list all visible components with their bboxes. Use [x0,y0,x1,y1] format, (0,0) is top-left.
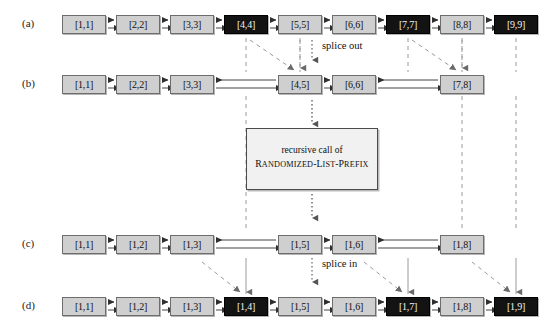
node-d-7[interactable]: [1,7] [386,297,430,316]
row-label-a: (a) [22,17,34,29]
node-a-3[interactable]: [3,3] [170,15,214,34]
node-b-3[interactable]: [3,3] [170,75,214,94]
recursive-call-dash-p: -P [335,158,344,169]
splice-in-label: splice in [322,258,357,269]
node-c-4[interactable]: [1,5] [278,235,322,254]
node-b-1[interactable]: [1,1] [62,75,106,94]
node-a-2[interactable]: [2,2] [116,15,160,34]
node-c-1[interactable]: [1,1] [62,235,106,254]
node-c-6[interactable]: [1,8] [440,235,484,254]
figure-canvas: (a) (b) (c) (d) [1,1] [2,2] [3,3] [4,4] … [0,0,541,335]
node-c-2[interactable]: [1,2] [116,235,160,254]
node-d-6[interactable]: [1,6] [332,297,376,316]
recursive-call-line1: recursive call of [281,145,342,155]
splice-out-label: splice out [322,40,363,51]
node-d-3[interactable]: [1,3] [170,297,214,316]
node-a-1[interactable]: [1,1] [62,15,106,34]
recursive-call-name-andomized: ANDOMIZED [262,160,313,169]
node-a-5[interactable]: [5,5] [278,15,322,34]
recursive-call-name-ist: IST [322,160,335,169]
node-b-2[interactable]: [2,2] [116,75,160,94]
node-c-3[interactable]: [1,3] [170,235,214,254]
node-d-5[interactable]: [1,5] [278,297,322,316]
recursive-call-box: recursive call of RANDOMIZED-LIST-PREFIX [246,128,378,190]
node-b-6[interactable]: [7,8] [440,75,484,94]
node-d-9[interactable]: [1,9] [494,297,538,316]
node-b-5[interactable]: [6,6] [332,75,376,94]
guides-a-to-b [246,38,516,72]
node-c-5[interactable]: [1,6] [332,235,376,254]
node-d-1[interactable]: [1,1] [62,297,106,316]
node-a-8[interactable]: [8,8] [440,15,484,34]
node-a-6[interactable]: [6,6] [332,15,376,34]
node-d-4[interactable]: [1,4] [224,297,268,316]
node-d-2[interactable]: [1,2] [116,297,160,316]
row-label-d: (d) [22,299,35,311]
guides-c-to-d [246,258,516,294]
splice-in-diagonals [202,262,516,292]
node-a-4[interactable]: [4,4] [224,15,268,34]
node-d-8[interactable]: [1,8] [440,297,484,316]
row-label-b: (b) [22,77,35,89]
node-a-9[interactable]: [9,9] [494,15,538,34]
node-a-7[interactable]: [7,7] [386,15,430,34]
recursive-call-name-refix: REFIX [344,160,369,169]
row-label-c: (c) [22,237,34,249]
node-b-4[interactable]: [4,5] [278,75,322,94]
